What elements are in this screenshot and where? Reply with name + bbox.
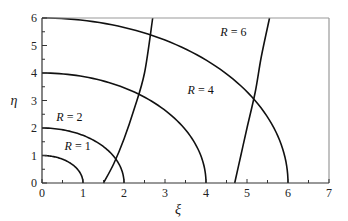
annotation-r1: R = 1 (64, 139, 91, 153)
annotation-r6: R = 6 (219, 25, 246, 39)
x-tick-label: 6 (285, 186, 291, 200)
annotation-r4: R = 4 (187, 83, 214, 97)
y-axis-label: η (11, 93, 18, 108)
chart: 012345670123456 ξ η R = 1 R = 2 R = 4 R … (0, 0, 348, 221)
x-tick-label: 0 (39, 186, 45, 200)
x-tick-label: 5 (244, 186, 250, 200)
plot-area (42, 18, 288, 183)
annotation-r2: R = 2 (55, 110, 82, 124)
series-r2 (42, 128, 124, 183)
y-tick-label: 3 (31, 94, 37, 108)
series-curve-b (235, 18, 270, 183)
series-r6 (42, 18, 288, 183)
y-tick-label: 0 (31, 176, 37, 190)
y-tick-label: 2 (31, 121, 37, 135)
x-tick-label: 2 (121, 186, 127, 200)
y-tick-label: 6 (31, 11, 37, 25)
x-tick-label: 1 (80, 186, 86, 200)
y-tick-label: 4 (31, 66, 37, 80)
series-r1 (42, 156, 83, 184)
series-curve-a (104, 18, 153, 183)
series-r4 (42, 73, 206, 183)
x-tick-label: 3 (162, 186, 168, 200)
x-axis-label: ξ (175, 202, 181, 217)
x-tick-label: 4 (203, 186, 209, 200)
y-tick-label: 5 (31, 39, 37, 53)
x-tick-label: 7 (326, 186, 332, 200)
y-tick-label: 1 (31, 149, 37, 163)
